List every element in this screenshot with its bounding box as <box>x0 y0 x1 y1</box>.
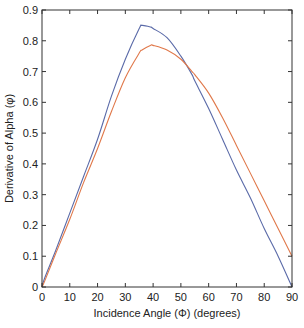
y-tick-label: 0.6 <box>23 96 38 108</box>
y-tick-label: 0.8 <box>23 35 38 47</box>
y-axis-ticks: 00.10.20.30.40.50.60.70.80.9 <box>23 4 292 293</box>
y-tick-label: 0.1 <box>23 250 38 262</box>
y-tick-label: 0.3 <box>23 189 38 201</box>
series-line-blue <box>42 25 292 287</box>
chart: 0102030405060708090 00.10.20.30.40.50.60… <box>0 0 304 328</box>
y-axis-label: Derivative of Alpha (φ) <box>3 94 15 203</box>
y-tick-label: 0.5 <box>23 127 38 139</box>
x-axis-ticks: 0102030405060708090 <box>39 10 298 303</box>
y-tick-label: 0.4 <box>23 158 38 170</box>
y-tick-label: 0.7 <box>23 66 38 78</box>
x-tick-label: 30 <box>119 291 131 303</box>
x-tick-label: 50 <box>175 291 187 303</box>
x-axis-label: Incidence Angle (Φ) (degrees) <box>94 307 241 319</box>
x-tick-label: 80 <box>258 291 270 303</box>
x-tick-label: 20 <box>91 291 103 303</box>
x-tick-label: 60 <box>203 291 215 303</box>
x-tick-label: 10 <box>64 291 76 303</box>
y-tick-label: 0.2 <box>23 219 38 231</box>
x-tick-label: 0 <box>39 291 45 303</box>
y-tick-label: 0 <box>32 281 38 293</box>
x-tick-label: 90 <box>286 291 298 303</box>
x-tick-label: 70 <box>230 291 242 303</box>
series-line-orange <box>42 45 292 287</box>
x-tick-label: 40 <box>147 291 159 303</box>
y-tick-label: 0.9 <box>23 4 38 16</box>
axes-box <box>42 10 292 287</box>
series-layer <box>42 25 292 287</box>
